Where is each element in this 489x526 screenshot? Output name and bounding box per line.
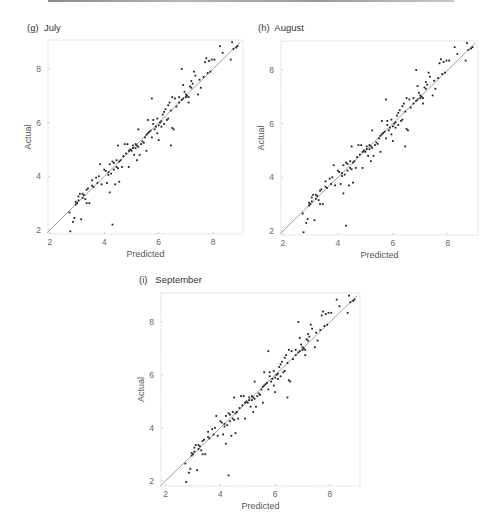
x-tick-label: 6: [273, 489, 278, 499]
data-points: [184, 295, 355, 483]
x-tick-label: 4: [218, 489, 223, 499]
scatter-plot-september: 24682468PredictedActual: [0, 0, 489, 526]
y-tick-label: 6: [149, 370, 154, 380]
y-tick-label: 4: [149, 423, 154, 433]
x-tick-label: 8: [328, 489, 333, 499]
y-axis-label: Actual: [136, 377, 146, 402]
x-axis-label: Predicted: [241, 501, 279, 511]
x-tick-label: 2: [163, 489, 168, 499]
y-tick-label: 8: [149, 317, 154, 327]
y-tick-label: 2: [149, 476, 154, 486]
